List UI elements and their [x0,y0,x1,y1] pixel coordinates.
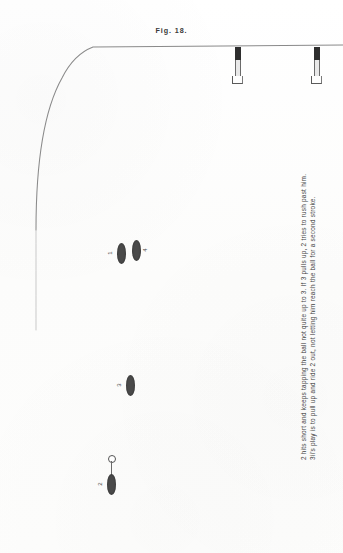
player-label: 1 [107,251,113,254]
player-marker: 4 [132,240,141,261]
field-boundary [0,0,343,553]
goal-post-shaft [314,60,320,76]
goal-post-right [311,47,322,84]
ball-path-line [111,461,112,475]
player-marker: 1 [117,243,126,264]
player-body-icon [107,474,116,495]
player-body-icon [126,375,135,396]
goal-post-shaft [235,60,241,76]
player-body-icon [132,240,141,261]
player-label: 3 [116,383,122,386]
goal-post-flag-icon [235,47,241,60]
player-label: 2 [97,482,103,485]
player-label: 4 [142,248,148,251]
caption-line-1: 2 hits short and keeps tapping the ball … [301,174,307,460]
goal-post-flag-icon [314,47,320,60]
ball [108,455,116,463]
goal-post-left [232,47,243,84]
player-body-icon [117,243,126,264]
figure-page: Fig. 18. 1 4 3 2 2 hits short and ke [0,0,343,553]
caption-line-2: 3ii's play is to pull up and ride 2 out,… [310,196,316,460]
player-marker: 3 [126,375,135,396]
goal-post-base [311,76,322,84]
player-marker: 2 [107,474,116,495]
goal-post-base [232,76,243,84]
